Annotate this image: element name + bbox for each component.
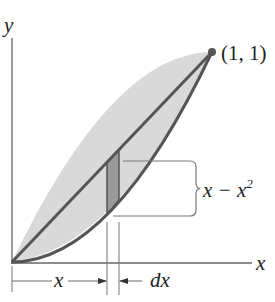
arrow-right-icon — [98, 278, 107, 284]
height-label: x − x2 — [202, 176, 253, 202]
arrow-left-icon — [119, 278, 128, 284]
area-diagram: y x (1, 1) x − x2 x dx — [0, 0, 275, 302]
line-y-equals-x — [12, 52, 212, 262]
x-width-label: x — [53, 268, 64, 292]
dx-label: dx — [150, 268, 171, 292]
x-axis-label: x — [255, 251, 266, 275]
point-label: (1, 1) — [221, 41, 267, 65]
endpoint-dot — [208, 48, 216, 56]
y-axis-label: y — [2, 13, 14, 37]
curly-brace-icon — [190, 161, 200, 216]
